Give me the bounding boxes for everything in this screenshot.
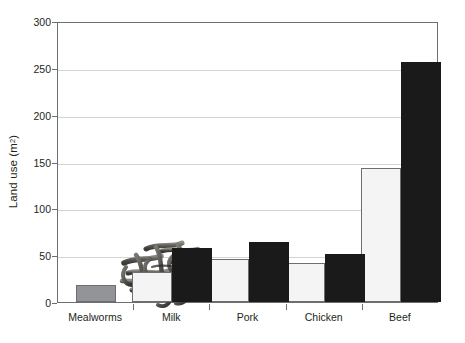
bar-pork-high-estimate <box>249 242 289 302</box>
x-axis-tick-mark <box>286 304 287 310</box>
y-axis-title-text: Land use (m <box>7 143 19 208</box>
y-axis-tick-label: 300 <box>11 16 51 28</box>
x-axis-category-label-milk: Milk <box>162 311 181 323</box>
bar-milk-high-estimate <box>172 248 212 302</box>
land-use-bar-chart: Land use (m2) 050100150200250300 <box>0 0 465 343</box>
x-axis-tick-mark <box>362 304 363 310</box>
bar-chicken-high-estimate <box>325 254 365 302</box>
y-axis-tick-label: 0 <box>11 297 51 309</box>
y-axis-title: Land use (m2) <box>0 0 26 343</box>
y-axis-tick-mark <box>52 303 57 304</box>
plot-area <box>57 22 438 303</box>
gridline <box>58 117 437 118</box>
y-axis-tick-label: 150 <box>11 157 51 169</box>
y-axis-tick-label: 250 <box>11 63 51 75</box>
x-axis-tick-mark <box>209 304 210 310</box>
bar-milk-low-estimate <box>132 272 172 302</box>
gridline <box>58 164 437 165</box>
bar-beef-high-estimate <box>401 62 441 302</box>
y-axis-tick-label: 50 <box>11 250 51 262</box>
x-axis-category-label-mealworms: Mealworms <box>68 311 122 323</box>
x-axis-category-label-beef: Beef <box>389 311 411 323</box>
x-axis-category-label-chicken: Chicken <box>305 311 343 323</box>
bar-mealworms-mealworms <box>76 285 116 302</box>
x-axis-category-label-pork: Pork <box>237 311 259 323</box>
y-axis-tick-label: 200 <box>11 110 51 122</box>
bar-beef-low-estimate <box>361 168 401 302</box>
y-axis-title-tail: ) <box>7 135 19 139</box>
x-axis-tick-mark <box>133 304 134 310</box>
gridline <box>58 70 437 71</box>
bar-pork-low-estimate <box>209 259 249 302</box>
y-axis-tick-label: 100 <box>11 203 51 215</box>
bar-chicken-low-estimate <box>285 263 325 302</box>
